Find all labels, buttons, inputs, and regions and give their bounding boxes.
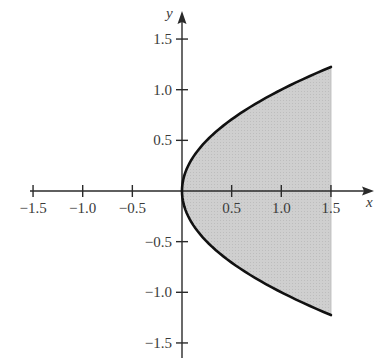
y-tick-label: −1.0 <box>145 284 172 300</box>
y-axis: 1.51.00.5−0.5−1.0−1.5 y <box>145 5 188 358</box>
parabola-region-plot: −1.5−1.0−0.50.51.01.5 x 1.51.00.5−0.5−1.… <box>0 0 375 364</box>
x-tick-label: 0.5 <box>222 200 241 216</box>
x-tick-label: −1.5 <box>19 200 46 216</box>
x-tick-label: −1.0 <box>69 200 96 216</box>
y-tick-label: 0.5 <box>153 132 172 148</box>
x-tick-label: −0.5 <box>119 200 146 216</box>
y-tick-label: −0.5 <box>145 234 172 250</box>
y-tick-label: −1.5 <box>145 335 172 351</box>
y-axis-label: y <box>164 5 173 21</box>
y-tick-label: 1.5 <box>153 31 172 47</box>
x-tick-label: 1.5 <box>322 200 341 216</box>
y-tick-label: 1.0 <box>153 82 172 98</box>
x-axis-label: x <box>365 194 373 210</box>
x-tick-label: 1.0 <box>272 200 291 216</box>
